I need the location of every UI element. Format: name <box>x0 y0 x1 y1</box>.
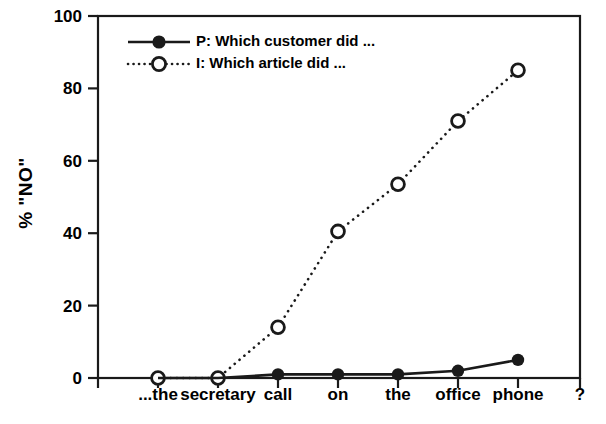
y-tick-0: 0 <box>36 370 82 387</box>
chart-legend: P: Which customer did ... I: Which artic… <box>196 30 375 74</box>
x-tick-call: call <box>264 386 292 405</box>
x-tick-the1: ...the <box>138 386 178 405</box>
chart-figure: % "NO" 100 80 60 40 20 0 ...the secretar… <box>0 0 606 424</box>
x-tick-office: office <box>435 386 480 405</box>
x-tick-the2: the <box>385 386 411 405</box>
y-axis-ticks <box>88 16 98 378</box>
x-tick-on: on <box>328 386 349 405</box>
y-tick-60: 60 <box>36 153 82 170</box>
x-tick-question: ? <box>575 386 585 405</box>
x-tick-secretary: secretary <box>180 386 256 405</box>
x-tick-phone: phone <box>493 386 544 405</box>
legend-entry-i: I: Which article did ... <box>196 52 375 74</box>
y-tick-20: 20 <box>36 298 82 315</box>
y-axis-tick-labels: 100 80 60 40 20 0 <box>36 0 82 424</box>
legend-entry-p: P: Which customer did ... <box>196 30 375 52</box>
y-tick-80: 80 <box>36 80 82 97</box>
y-axis-title: % "NO" <box>15 123 37 263</box>
y-tick-100: 100 <box>36 8 82 25</box>
y-tick-40: 40 <box>36 225 82 242</box>
x-axis-tick-labels: ...the secretary call on the office phon… <box>0 386 606 416</box>
